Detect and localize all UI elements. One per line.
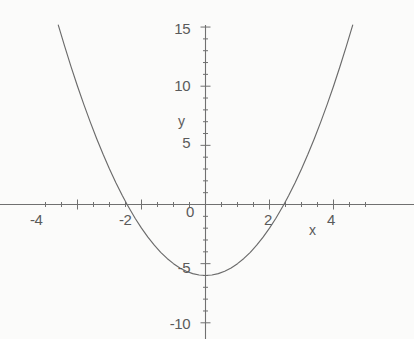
x-tick-label-4: 4 bbox=[327, 211, 335, 228]
x-tick-label-minus-2: -2 bbox=[119, 211, 131, 228]
x-tick-label-minus-4: -4 bbox=[30, 211, 42, 228]
y-axis-label: y bbox=[178, 113, 185, 129]
graph-figure: 15 10 5 -5 -10 -4 -2 0 2 4 y x bbox=[0, 0, 414, 339]
plot-canvas bbox=[0, 0, 414, 339]
axes-group bbox=[0, 25, 414, 339]
y-tick-label-10: 10 bbox=[158, 77, 190, 94]
y-tick-label-minus-10: -10 bbox=[152, 315, 190, 332]
y-tick-label-15: 15 bbox=[158, 20, 190, 37]
y-tick-label-minus-5: -5 bbox=[158, 259, 190, 276]
x-tick-label-zero: 0 bbox=[186, 203, 194, 220]
x-tick-label-2: 2 bbox=[264, 211, 272, 228]
y-tick-label-5: 5 bbox=[158, 134, 190, 151]
x-axis-label: x bbox=[309, 222, 316, 238]
